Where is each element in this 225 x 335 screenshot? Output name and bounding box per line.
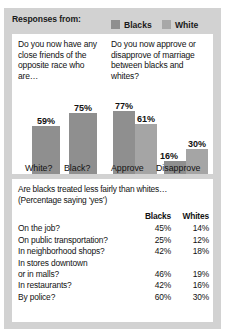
row-question: On public transportation? — [18, 235, 131, 246]
row-blacks: 45% — [131, 223, 171, 234]
table-row: By police? 60% 30% — [18, 292, 209, 303]
table-panel: Are blacks treated less fairly than whit… — [12, 179, 213, 322]
row-blacks: 42% — [131, 280, 171, 291]
figure-container: Responses from: Blacks White Do you now … — [4, 8, 221, 329]
table-title-line1: Are blacks treated less fairly than whit… — [18, 184, 211, 195]
chart-panel: Do you now have any close friends of the… — [12, 34, 213, 174]
table-header-blacks: Blacks — [131, 211, 171, 223]
axis-label-white: White? — [25, 163, 52, 173]
question-right: Do you now approve or disapprove of marr… — [111, 39, 209, 81]
legend-label-blacks: Blacks — [124, 20, 152, 30]
row-whites: 30% — [171, 292, 209, 303]
row-blacks: 25% — [131, 235, 171, 246]
row-whites: 12% — [171, 235, 209, 246]
table-header-question — [18, 211, 131, 223]
question-left: Do you now have any close friends of the… — [18, 39, 106, 81]
table-row: In neighborhood shops? 42% 18% — [18, 246, 209, 257]
question-left-text: Do you now have any close friends of the… — [18, 39, 106, 81]
bar-left-white-value: 59% — [37, 116, 55, 126]
row-question: By police? — [18, 292, 131, 303]
row-question: On the job? — [18, 223, 131, 234]
fairness-table: Blacks Whites On the job? 45% 14% On pub… — [18, 211, 209, 303]
row-blacks: 42% — [131, 246, 171, 257]
table-row: On public transportation? 25% 12% — [18, 235, 209, 246]
table-row: In restaurants? 42% 16% — [18, 280, 209, 291]
row-whites: 18% — [171, 246, 209, 257]
row-whites: 16% — [171, 280, 209, 291]
row-question: In stores downtown — [18, 258, 131, 269]
row-question: In neighborhood shops? — [18, 246, 131, 257]
legend: Responses from: Blacks White — [4, 8, 221, 34]
row-question-cont: or in malls? — [18, 269, 131, 280]
legend-title: Responses from: — [12, 14, 81, 24]
bar-left-black-value: 75% — [74, 103, 92, 113]
row-whites — [171, 258, 209, 269]
table-row: In stores downtown — [18, 258, 209, 269]
row-question: In restaurants? — [18, 280, 131, 291]
axis-labels: White? Black? Approve Disapprove — [12, 159, 213, 173]
axis-label-approve: Approve — [111, 163, 144, 173]
legend-swatch-blacks-icon — [111, 20, 120, 29]
table-title-line2: (Percentage saying ‘yes’) — [18, 195, 211, 206]
legend-swatch-white-icon — [162, 20, 171, 29]
row-whites: 19% — [171, 269, 209, 280]
legend-label-white: White — [175, 20, 198, 30]
table-title: Are blacks treated less fairly than whit… — [18, 184, 211, 206]
row-blacks: 46% — [131, 269, 171, 280]
table-header-row: Blacks Whites — [18, 211, 209, 223]
bar-approve-white-value: 61% — [137, 114, 155, 124]
bar-disapprove-white-value: 30% — [188, 139, 206, 149]
table-row: On the job? 45% 14% — [18, 223, 209, 234]
question-right-text: Do you now approve or disapprove of marr… — [111, 39, 209, 81]
axis-label-disapprove: Disapprove — [156, 163, 201, 173]
table-row: or in malls? 46% 19% — [18, 269, 209, 280]
row-whites: 14% — [171, 223, 209, 234]
axis-label-black: Black? — [64, 163, 90, 173]
table-header-whites: Whites — [171, 211, 209, 223]
bar-approve-blacks-value: 77% — [115, 101, 133, 111]
row-blacks: 60% — [131, 292, 171, 303]
legend-item-blacks: Blacks — [111, 14, 152, 32]
legend-item-white: White — [162, 14, 198, 32]
row-blacks — [131, 258, 171, 269]
